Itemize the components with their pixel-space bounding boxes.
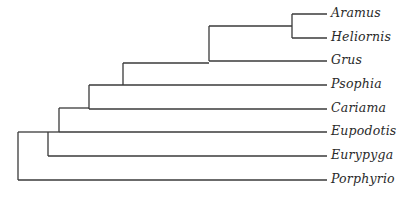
taxon-label-heliornis: Heliornis xyxy=(331,30,391,44)
clade-aramus-heliornis xyxy=(292,14,327,38)
clade-grus xyxy=(209,26,327,61)
clade-eupodotis xyxy=(59,108,327,132)
clade-eurypyga xyxy=(48,132,327,156)
taxon-label-aramus: Aramus xyxy=(331,6,381,20)
taxon-label-porphyrio: Porphyrio xyxy=(331,172,395,186)
taxon-label-eurypyga: Eurypyga xyxy=(331,148,393,162)
taxon-label-cariama: Cariama xyxy=(331,101,386,115)
taxon-label-grus: Grus xyxy=(331,53,362,67)
clade-cariama xyxy=(89,85,327,109)
taxon-label-eupodotis: Eupodotis xyxy=(331,124,396,138)
taxon-label-psophia: Psophia xyxy=(331,77,382,91)
clade-psophia xyxy=(123,63,327,85)
